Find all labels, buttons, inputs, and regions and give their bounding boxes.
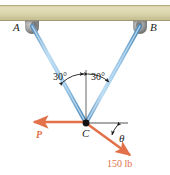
statics-figure: A B C 30° 30° θ P 150 lb <box>0 0 170 175</box>
figure-canvas <box>0 0 170 175</box>
label-support-b: B <box>150 22 157 33</box>
label-angle-right: 30° <box>91 72 105 82</box>
label-joint-c: C <box>82 128 89 139</box>
ceiling-beam <box>0 5 170 21</box>
label-support-a: A <box>13 22 20 33</box>
label-force-p: P <box>36 130 42 140</box>
joint-dot-c <box>83 120 90 127</box>
label-load-value: 150 lb <box>107 159 132 169</box>
label-angle-left: 30° <box>53 72 67 82</box>
label-angle-theta: θ <box>119 133 124 144</box>
angle-arc-theta <box>112 126 117 135</box>
